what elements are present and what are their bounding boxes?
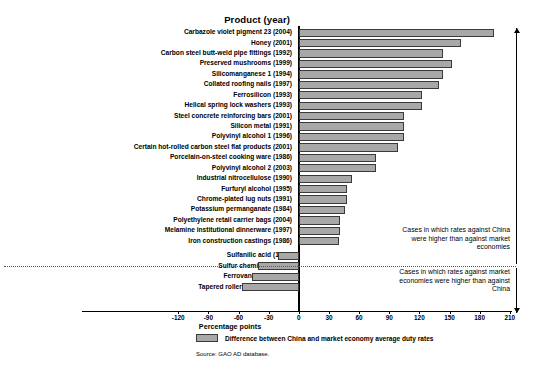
bar [299,227,340,235]
bar [299,195,347,203]
chart-row: Carbon steel butt-weld pipe fittings (19… [0,48,534,58]
chart-row: Silicomanganese 1 (1994) [0,69,534,79]
x-tick-label: 60 [344,314,374,321]
category-label: Helical spring lock washers (1993) [185,100,292,110]
brace-upper-arrow-icon [514,28,520,33]
chart-row: Polyvinyl alcohol 2 (2003) [0,163,534,173]
category-label: Silicomanganese 1 (1994) [212,69,292,79]
chart-row: Furfuryl alcohol (1995) [0,184,534,194]
bar [299,29,494,37]
category-label: Polyvinyl alcohol 2 (2003) [212,163,292,173]
x-tick-label: 90 [374,314,404,321]
x-tick-label: -90 [193,314,223,321]
bar [299,70,444,78]
bar [299,49,444,57]
bar [299,206,345,214]
brace-upper-stem [516,28,517,264]
chart-row: Industrial nitrocellulose (1990) [0,174,534,184]
category-label: Carbazole violet pigment 23 (2004) [184,27,292,37]
x-tick-label: -30 [254,314,284,321]
bar [299,133,405,141]
bar [299,185,347,193]
chart-row: Potassium permanganate (1984) [0,205,534,215]
bar [299,81,440,89]
positive-negative-divider [4,266,516,267]
legend-swatch [196,334,218,342]
bar [278,252,299,260]
chart-row: Polyethylene retail carrier bags (2004) [0,215,534,225]
category-label: Steel concrete reinforcing bars (2001) [174,111,292,121]
chart-row: Carbazole violet pigment 23 (2004) [0,28,534,38]
x-tick-label: -60 [224,314,254,321]
bar [299,164,376,172]
brace-lower-stem [516,268,517,313]
chart-row: Collated roofing nails (1997) [0,80,534,90]
chart-row: Polyvinyl alcohol 1 (1996) [0,132,534,142]
category-label: Polyvinyl alcohol 1 (1996) [212,131,292,141]
category-label: Carbon steel butt-weld pipe fittings (19… [161,48,292,58]
chart-row: Chrome-plated lug nuts (1991) [0,194,534,204]
category-label: Certain hot-rolled carbon steel flat pro… [134,142,292,152]
bar [299,60,452,68]
chart-row: Porcelain-on-steel cooking ware (1986) [0,153,534,163]
bar [299,143,398,151]
annotation-upper: Cases in which rates against China were … [390,226,510,252]
x-axis-line [82,311,512,312]
x-tick-label: 120 [404,314,434,321]
bar [299,216,340,224]
legend-label: Difference between China and market econ… [225,335,434,342]
x-tick-label: 150 [435,314,465,321]
x-tick-label: 210 [495,314,525,321]
x-tick-label: 30 [314,314,344,321]
annotation-lower: Cases in which rates against market econ… [390,268,510,294]
category-label: Porcelain-on-steel cooking ware (1986) [170,152,292,162]
category-label: Collated roofing nails (1997) [204,79,292,89]
bar [252,273,299,281]
chart-row: Certain hot-rolled carbon steel flat pro… [0,142,534,152]
category-label: Polyethylene retail carrier bags (2004) [173,215,292,225]
bar [299,102,423,110]
category-label: Melamine institutional dinnerware (1997) [165,225,292,235]
bar [299,122,405,130]
bar [299,112,405,120]
category-label: Industrial nitrocellulose (1990) [197,173,292,183]
category-label: Ferrosilicon (1993) [233,90,292,100]
x-axis-title-text: Percentage points [199,322,261,331]
chart-row: Preserved mushrooms (1999) [0,59,534,69]
bar [299,91,423,99]
chart-row: Honey (2001) [0,38,534,48]
chart-row: Ferrosilicon (1993) [0,90,534,100]
category-label: Furfuryl alcohol (1995) [221,184,292,194]
bar [299,39,461,47]
antidumping-duty-difference-chart: Product (year) Carbazole violet pigment … [0,0,534,369]
category-label: Potassium permanganate (1984) [191,204,292,214]
brace-lower-arrow-icon [514,308,520,313]
chart-row: Sulfanilic acid (1992) [0,251,534,261]
category-label: Iron construction castings (1986) [188,236,292,246]
category-label: Preserved mushrooms (1999) [200,58,292,68]
x-tick-label: 0 [284,314,314,321]
brace-upper [512,28,521,264]
bar [299,175,352,183]
chart-row: Silicon metal (1991) [0,121,534,131]
bar [242,283,299,291]
bar [299,154,376,162]
x-axis-title: Percentage points [0,322,534,331]
category-label: Silicon metal (1991) [230,121,292,131]
bar [299,237,339,245]
source-note: Source: GAO AD database. [196,351,269,357]
legend: Difference between China and market econ… [196,334,434,342]
brace-lower [512,268,521,313]
x-tick-label: 180 [465,314,495,321]
category-label: Honey (2001) [251,38,292,48]
chart-row: Steel concrete reinforcing bars (2001) [0,111,534,121]
category-label: Chrome-plated lug nuts (1991) [197,194,292,204]
x-tick-label: -120 [163,314,193,321]
chart-row: Helical spring lock washers (1993) [0,101,534,111]
